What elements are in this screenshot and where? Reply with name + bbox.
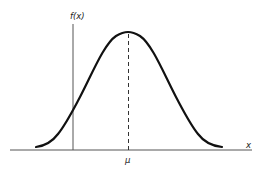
- x-axis-label: x: [245, 140, 252, 150]
- y-axis-label: f(x): [70, 11, 85, 21]
- normal-curve-diagram: f(x) x μ: [0, 0, 263, 171]
- mean-label: μ: [124, 155, 131, 165]
